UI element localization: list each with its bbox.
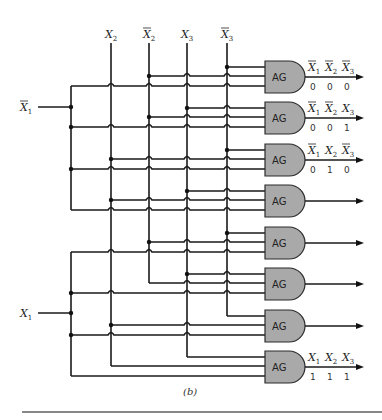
arrow-icon	[356, 364, 364, 370]
junction-dot	[69, 291, 73, 295]
gate-label: AG	[272, 321, 286, 332]
variable-label: X1	[19, 101, 32, 116]
junction-dot	[147, 115, 151, 119]
gate-input-wire	[149, 115, 265, 118]
gate-input-wire	[111, 198, 265, 201]
junction-dot	[109, 157, 113, 161]
variable-label: X2	[324, 351, 337, 366]
output-bit: 1	[327, 165, 333, 175]
variable-label: X1	[307, 102, 320, 117]
junction-dot	[147, 74, 151, 78]
decoder-circuit: X2X2X3X3X1X1AGX1X2X3000AGX1X2X3001AGX1X2…	[0, 0, 382, 420]
output-bit: 0	[310, 123, 316, 133]
gate-input-wire	[111, 323, 265, 326]
junction-dot	[225, 231, 229, 235]
output-bit: 1	[310, 372, 316, 382]
variable-label: X3	[341, 61, 354, 76]
gate-input-wire	[71, 84, 265, 87]
output-bit: 0	[310, 82, 316, 92]
junction-dot	[185, 189, 189, 193]
junction-dot	[109, 323, 113, 327]
junction-dot	[185, 106, 189, 110]
gate-input-wire	[187, 189, 265, 192]
gate-label: AG	[272, 238, 286, 249]
and-gate-1: AGX1X2X3001	[69, 102, 364, 134]
variable-label: X2	[142, 28, 155, 43]
variable-label: X2	[104, 28, 117, 43]
gate-label: AG	[272, 72, 286, 83]
variable-label: X1	[19, 307, 32, 322]
gate-label: AG	[272, 196, 286, 207]
gate-input-wire	[71, 208, 265, 211]
junction-dot	[225, 65, 229, 69]
variable-label: X3	[341, 351, 354, 366]
junction-dot	[147, 240, 151, 244]
variable-label: X3	[180, 28, 193, 43]
output-bit: 0	[327, 82, 333, 92]
input-line-X2: X2	[104, 28, 117, 366]
arrow-icon	[356, 240, 364, 246]
gate-input-wire	[71, 333, 265, 336]
output-bit: 1	[344, 123, 350, 133]
variable-label: X2	[324, 61, 337, 76]
junction-dot	[69, 333, 73, 337]
gate-input-wire	[187, 272, 265, 275]
junction-dot	[69, 125, 73, 129]
and-gate-6: AG	[69, 310, 364, 342]
variable-label: X2	[324, 102, 337, 117]
arrow-icon	[356, 281, 364, 287]
variable-label: X3	[220, 28, 233, 43]
output-bit: 0	[344, 165, 350, 175]
gate-input-wire	[111, 157, 265, 160]
output-bit: 1	[327, 372, 333, 382]
gate-input-wire	[149, 240, 265, 243]
gate-label: AG	[272, 155, 286, 166]
and-gate-7: AGX1X2X3111	[71, 351, 364, 383]
variable-label: X1	[307, 144, 320, 159]
gate-input-wire	[149, 281, 265, 284]
gate-input-wire	[71, 125, 265, 128]
gate-label: AG	[272, 113, 286, 124]
and-gate-3: AG	[71, 185, 364, 217]
junction-dot	[69, 167, 73, 171]
and-gate-2: AGX1X2X3010	[69, 144, 364, 176]
junction-dot	[185, 272, 189, 276]
input-bus-nX1: X1	[19, 86, 73, 210]
input-line-nX3: X3	[220, 28, 233, 316]
gate-label: AG	[272, 279, 286, 290]
output-bit: 0	[344, 82, 350, 92]
caption: (b)	[183, 386, 197, 397]
gate-input-wire	[149, 74, 265, 77]
variable-label: X3	[341, 102, 354, 117]
input-bus-X1: X1	[19, 252, 73, 376]
gate-input-wire	[71, 291, 265, 294]
arrow-icon	[356, 323, 364, 329]
variable-label: X1	[307, 351, 320, 366]
variable-label: X3	[341, 144, 354, 159]
and-gate-0: AGX1X2X3000	[71, 61, 364, 93]
variable-label: X1	[307, 61, 320, 76]
gate-input-wire	[71, 250, 265, 253]
arrow-icon	[356, 198, 364, 204]
gate-input-wire	[187, 106, 265, 109]
output-bit: 0	[327, 123, 333, 133]
variable-label: X2	[324, 144, 337, 159]
input-line-nX2: X2	[142, 28, 155, 283]
arrow-icon	[356, 115, 364, 121]
arrow-icon	[356, 157, 364, 163]
output-bit: 0	[310, 165, 316, 175]
and-gate-5: AG	[69, 268, 364, 300]
junction-dot	[109, 198, 113, 202]
output-bit: 1	[344, 372, 350, 382]
gate-input-wire	[71, 167, 265, 170]
and-gate-4: AG	[71, 227, 364, 259]
gate-label: AG	[272, 362, 286, 373]
junction-dot	[225, 148, 229, 152]
arrow-icon	[356, 74, 364, 80]
